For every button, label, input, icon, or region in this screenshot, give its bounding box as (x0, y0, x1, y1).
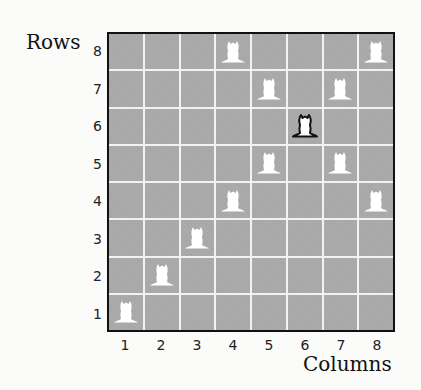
board-cell (359, 295, 393, 330)
queen-piece-icon (325, 74, 355, 104)
column-label: 7 (323, 337, 359, 353)
column-label: 3 (179, 337, 215, 353)
board-cell (252, 71, 286, 106)
board-cell (288, 146, 322, 181)
row-label: 3 (88, 231, 102, 247)
board-cell (359, 183, 393, 218)
queen-piece-icon (254, 148, 284, 178)
board-cell (324, 34, 358, 69)
board-cell (145, 146, 179, 181)
board-cell (324, 71, 358, 106)
row-label: 2 (88, 268, 102, 284)
board-cell (109, 146, 143, 181)
board-cell (252, 146, 286, 181)
column-label: 5 (251, 337, 287, 353)
board-cell (324, 109, 358, 144)
board-cell (181, 220, 215, 255)
board-cell (181, 146, 215, 181)
board-cell (145, 295, 179, 330)
column-label: 4 (215, 337, 251, 353)
board-cell (216, 258, 250, 293)
board-cell (145, 109, 179, 144)
row-label: 4 (88, 193, 102, 209)
column-label: 1 (107, 337, 143, 353)
board-cell (252, 258, 286, 293)
queen-piece-icon (111, 297, 141, 327)
row-label: 7 (88, 81, 102, 97)
queen-piece-icon (361, 186, 391, 216)
board-cell (216, 183, 250, 218)
board-cell (288, 183, 322, 218)
column-label: 6 (287, 337, 323, 353)
board-cell (109, 295, 143, 330)
board-cell (109, 258, 143, 293)
board-cell (252, 109, 286, 144)
board-cell (324, 258, 358, 293)
board-cell (109, 34, 143, 69)
rows-axis-title: Rows (26, 30, 80, 54)
board-cell (288, 220, 322, 255)
board-cell (324, 183, 358, 218)
board-grid (107, 32, 395, 332)
board-cell (288, 34, 322, 69)
board-cell (181, 183, 215, 218)
queen-piece-icon (182, 223, 212, 253)
board-cell (109, 220, 143, 255)
board-cell (145, 71, 179, 106)
board-cell (216, 71, 250, 106)
board-cell (324, 220, 358, 255)
board-cell (324, 146, 358, 181)
board-cell (288, 258, 322, 293)
board-cell (324, 295, 358, 330)
board-cell (181, 258, 215, 293)
queen-piece-icon (147, 260, 177, 290)
column-label: 2 (143, 337, 179, 353)
column-label: 8 (359, 337, 395, 353)
board-cell (359, 258, 393, 293)
board-cell (181, 34, 215, 69)
board-cell (216, 220, 250, 255)
queen-piece-icon (325, 148, 355, 178)
board-cell (252, 295, 286, 330)
board-cell (359, 109, 393, 144)
board-cell (288, 71, 322, 106)
board-cell (181, 295, 215, 330)
board-cell (109, 109, 143, 144)
queen-piece-icon (218, 37, 248, 67)
queen-piece-icon (254, 74, 284, 104)
board-cell (359, 71, 393, 106)
board-cell (216, 146, 250, 181)
board-cell (288, 295, 322, 330)
board-cell (359, 146, 393, 181)
row-label: 6 (88, 118, 102, 134)
board-cell (109, 71, 143, 106)
row-label: 5 (88, 156, 102, 172)
board-cell (181, 71, 215, 106)
board-cell (109, 183, 143, 218)
board-cell (359, 34, 393, 69)
board-cell (288, 109, 322, 144)
board-cell (359, 220, 393, 255)
board-cell (181, 109, 215, 144)
highlighted-queen-piece-icon (290, 111, 320, 141)
board-cell (145, 258, 179, 293)
board-cell (216, 34, 250, 69)
board-cell (216, 109, 250, 144)
columns-axis-title: Columns (303, 352, 392, 376)
board-cell (216, 295, 250, 330)
queen-piece-icon (361, 37, 391, 67)
board-cell (252, 34, 286, 69)
row-label: 8 (88, 43, 102, 59)
row-label: 1 (88, 306, 102, 322)
board-cell (145, 220, 179, 255)
board-cell (145, 183, 179, 218)
board-cell (145, 34, 179, 69)
board-cell (252, 220, 286, 255)
board-cell (252, 183, 286, 218)
queen-piece-icon (218, 186, 248, 216)
